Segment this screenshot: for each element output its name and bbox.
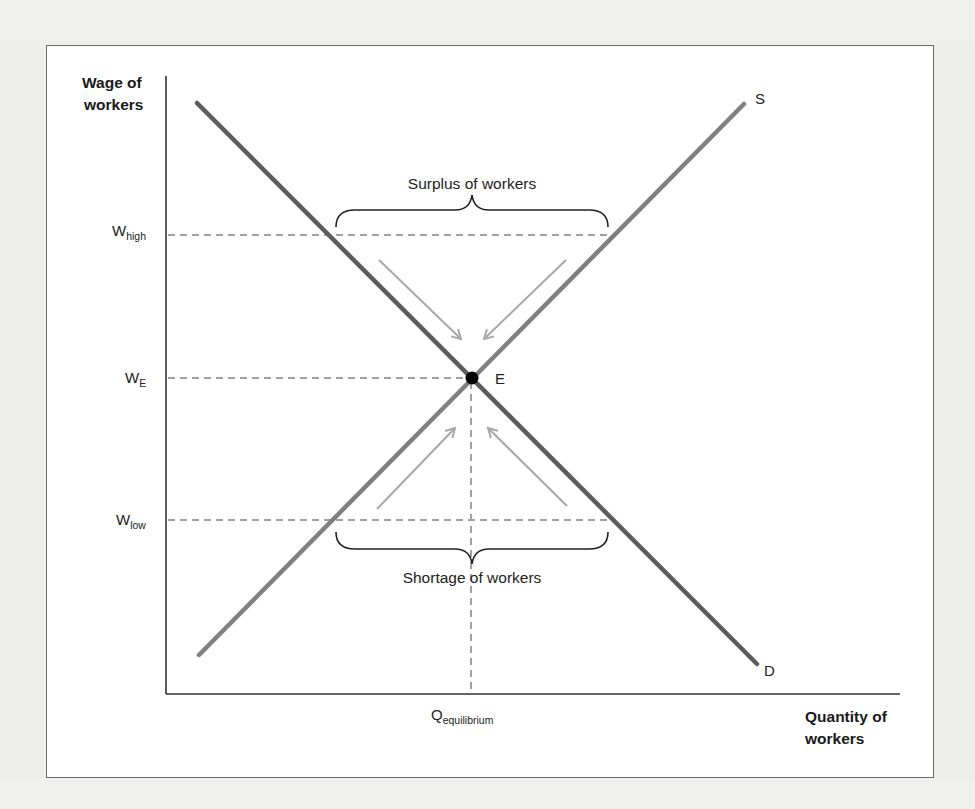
- surplus-label: Surplus of workers: [408, 175, 537, 192]
- w-high-label: Whigh: [112, 222, 146, 242]
- arrow-lower-right-icon: [488, 428, 567, 506]
- y-axis-title-line1: Wage of: [82, 74, 143, 91]
- demand-label: D: [764, 662, 775, 679]
- supply-label: S: [755, 90, 765, 107]
- y-axis-title-line2: workers: [83, 96, 143, 113]
- shortage-label: Shortage of workers: [403, 569, 542, 586]
- equilibrium-point: [466, 372, 479, 385]
- x-axis-title-line1: Quantity of: [805, 708, 888, 725]
- q-equilibrium-label: Qequilibrium: [431, 706, 494, 726]
- w-e-label: WE: [125, 369, 146, 389]
- x-axis-title-line2: workers: [804, 730, 864, 747]
- w-low-label: Wlow: [116, 511, 146, 531]
- labor-market-diagram: Surplus of workers Shortage of workers W…: [0, 0, 975, 809]
- surplus-brace: [336, 195, 608, 227]
- equilibrium-label: E: [495, 370, 505, 387]
- arrow-lower-left-icon: [377, 428, 455, 509]
- shortage-brace: [336, 532, 608, 564]
